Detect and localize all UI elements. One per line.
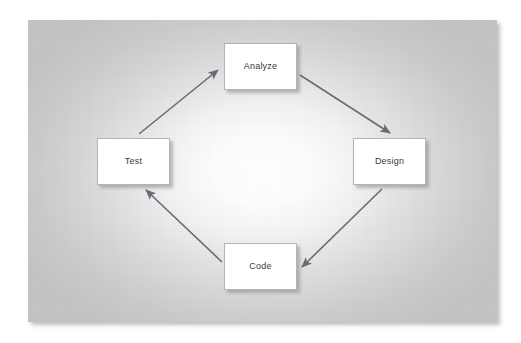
- node-analyze[interactable]: Analyze: [224, 43, 297, 90]
- node-design-label: Design: [375, 157, 404, 166]
- node-test[interactable]: Test: [97, 138, 170, 185]
- node-analyze-label: Analyze: [244, 62, 277, 71]
- diagram-canvas: Analyze Design Code Test: [0, 0, 521, 343]
- node-code[interactable]: Code: [224, 243, 297, 290]
- node-test-label: Test: [125, 157, 142, 166]
- node-design[interactable]: Design: [353, 138, 426, 185]
- node-code-label: Code: [249, 262, 271, 271]
